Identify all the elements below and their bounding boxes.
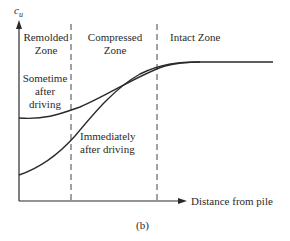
y-axis-label: cu	[14, 4, 23, 19]
zone-label-compressed: CompressedZone	[76, 31, 154, 57]
zone-label-remolded: RemoldedZone	[21, 31, 71, 57]
figure-caption: (b)	[136, 219, 149, 232]
x-axis-arrow-icon	[178, 198, 187, 204]
curve-label-sometime-after-driving: Sometimeafterdriving	[20, 72, 70, 111]
curve-label-immediately-after-driving: Immediatelyafter driving	[80, 130, 140, 156]
y-axis-arrow-icon	[16, 20, 22, 29]
x-axis-label: Distance from pile	[191, 195, 273, 208]
zone-label-intact: Intact Zone	[170, 31, 238, 44]
